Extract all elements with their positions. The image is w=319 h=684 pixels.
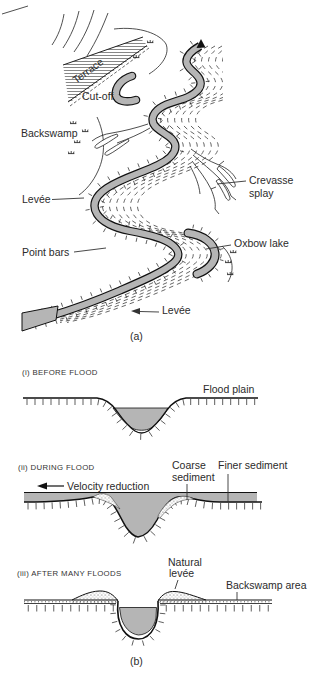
flood-water <box>24 493 257 538</box>
panel-b-sections: (i) BEFORE FLOOD Flood plain (ii) DURING… <box>17 368 307 667</box>
label-backswamp-area: Backswamp area <box>226 579 307 591</box>
caption-b: (b) <box>130 655 143 667</box>
velocity-arrow-head <box>37 483 47 490</box>
crevasse-splay-lines <box>190 149 236 214</box>
label-levee-bottom: Levée <box>162 304 191 316</box>
label-levee-left: Levée <box>22 193 51 205</box>
leader-natural-levee <box>175 580 178 589</box>
label-cutoff: Cut-off <box>82 90 113 102</box>
section-after-floods: (iii) AFTER MANY FLOODS Natural levée Ba… <box>17 556 307 646</box>
channel-water-after <box>120 608 157 636</box>
section-before-flood: (i) BEFORE FLOOD Flood plain <box>22 368 258 440</box>
label-flood-plain: Flood plain <box>203 383 255 395</box>
label-point-bars: Point bars <box>22 246 69 258</box>
hachure-ticks <box>166 605 268 612</box>
leader-levee-bottom-arrowhead <box>131 308 140 315</box>
label-backswamp: Backswamp <box>21 127 78 139</box>
heading-during-flood: (ii) DURING FLOOD <box>18 463 95 472</box>
floodplain-figure: Terrace Cut-off Backswamp Levée Point ba… <box>0 0 319 684</box>
label-coarse-sediment-2: sediment <box>172 471 215 483</box>
leader-levee-bottom <box>140 312 159 313</box>
label-crevasse-splay-1: Crevasse <box>249 174 294 186</box>
leader-point-bars <box>74 248 106 252</box>
floodplain-surface-lines <box>24 600 272 604</box>
floodplain-figure-page: Terrace Cut-off Backswamp Levée Point ba… <box>0 0 319 684</box>
label-velocity-reduction: Velocity reduction <box>67 480 149 492</box>
heading-before-flood: (i) BEFORE FLOOD <box>22 368 98 377</box>
minor-splay-lines <box>92 124 150 155</box>
hachure-ticks <box>28 605 113 612</box>
panel-a-map: Terrace Cut-off Backswamp Levée Point ba… <box>2 6 294 342</box>
upland-contour-lines <box>2 6 108 56</box>
caption-a: (a) <box>130 330 143 342</box>
label-crevasse-splay-2: splay <box>249 187 274 199</box>
river-channel <box>24 46 201 323</box>
label-finer-sediment: Finer sediment <box>218 459 288 471</box>
leader-levee-left <box>52 198 84 200</box>
label-coarse-sediment-1: Coarse <box>172 459 206 471</box>
heading-after-floods: (iii) AFTER MANY FLOODS <box>17 569 122 578</box>
label-natural-levee-2: levée <box>169 567 194 579</box>
label-oxbow-lake: Oxbow lake <box>234 237 289 249</box>
section-during-flood: (ii) DURING FLOOD Velocity reduction Coa… <box>18 459 288 543</box>
river-mouth <box>22 306 58 331</box>
